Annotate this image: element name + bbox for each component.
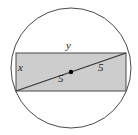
- label-diagonal-right-half: 5: [98, 62, 104, 73]
- label-diagonal-left-half: 5: [58, 73, 64, 84]
- geometry-figure: y x 5 5: [0, 0, 138, 135]
- label-top-side-y: y: [66, 40, 71, 51]
- circle-center-point: [69, 70, 73, 74]
- label-left-side-x: x: [18, 62, 23, 73]
